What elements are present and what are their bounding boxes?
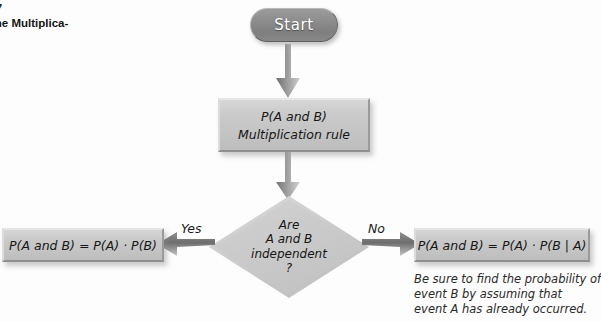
branch-label-yes: Yes: [181, 221, 201, 236]
flowchart-yes-result-node: P(A and B) = P(A) · P(B): [2, 228, 164, 262]
decision-line-2: A and B: [266, 233, 313, 246]
decision-line-1: Are: [279, 219, 300, 232]
flowchart-process-node: P(A and B) Multiplication rule: [218, 98, 370, 152]
no-result-formula: P(A and B) = P(A) · P(B | A): [418, 238, 587, 253]
note-line-3: event A has already occurred.: [414, 302, 594, 317]
arrow-decision-to-no: [362, 232, 420, 262]
flowchart-no-result-node: P(A and B) = P(A) · P(B | A): [414, 228, 590, 262]
note-line-2: event B by assuming that: [414, 287, 594, 302]
flowchart-decision-node: Are A and B independent ?: [209, 196, 369, 298]
branch-label-no: No: [368, 221, 385, 236]
arrow-process-to-decision: [271, 152, 305, 202]
caption-text: the Multiplica-: [0, 17, 68, 29]
note-line-1: Be sure to find the probability of: [414, 272, 594, 287]
no-branch-note: Be sure to find the probability of event…: [414, 272, 594, 318]
decision-line-3: independent: [251, 248, 327, 261]
process-node-line-1: P(A and B): [261, 109, 327, 124]
process-node-line-2: Multiplication rule: [238, 127, 350, 142]
caption-number: 7: [0, 2, 2, 14]
decision-line-4: ?: [286, 262, 292, 275]
flowchart-start-node: Start: [250, 8, 338, 42]
decision-node-text: Are A and B independent ?: [209, 196, 369, 298]
yes-result-formula: P(A and B) = P(A) · P(B): [9, 238, 157, 253]
arrow-decision-to-yes: [157, 232, 215, 262]
arrow-start-to-process: [271, 44, 305, 100]
start-node-label: Start: [274, 16, 314, 34]
